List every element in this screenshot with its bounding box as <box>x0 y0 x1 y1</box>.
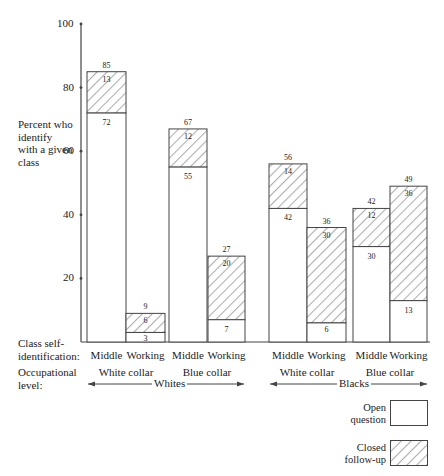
bar-total-label: 85 <box>99 60 115 72</box>
bar-open-label: 7 <box>219 324 235 336</box>
bar-closed-label: 14 <box>280 166 296 178</box>
group-arrows <box>88 382 427 387</box>
bar-total-label: 56 <box>280 152 296 164</box>
bar-open-label: 42 <box>280 212 296 224</box>
y-tick-label: 100 <box>57 17 74 29</box>
bar-total-label: 49 <box>401 174 417 186</box>
bar-7 <box>390 186 427 342</box>
bar-total-label: 9 <box>138 301 154 313</box>
bar-open-label: 55 <box>180 171 196 183</box>
bar-total-label: 67 <box>180 117 196 129</box>
legend-closed-label: Closed follow-up <box>326 442 386 466</box>
legend-closed-swatch <box>391 441 428 466</box>
bar-open-label: 30 <box>364 251 380 263</box>
bar-open-label: 72 <box>99 117 115 129</box>
legend-open-swatch <box>390 400 428 426</box>
bar-total-label: 42 <box>364 196 380 208</box>
class-self-identification-label: Class self- identification: <box>18 337 80 362</box>
bar-closed-label: 13 <box>99 74 115 86</box>
race-label-whites: Whites <box>152 377 187 389</box>
y-axis-title: Percent who identify with a given class <box>18 118 73 168</box>
class-label: Working <box>197 349 257 361</box>
bar-total-label: 36 <box>319 216 335 228</box>
bar-open-label: 13 <box>401 305 417 317</box>
bar-total-label: 27 <box>219 244 235 256</box>
race-label-blacks: Blacks <box>337 377 371 389</box>
class-label: Working <box>379 349 439 361</box>
bar-closed-label: 20 <box>219 258 235 270</box>
bar-2 <box>169 129 207 342</box>
bar-closed-label: 36 <box>401 188 417 200</box>
bar-open-label: 6 <box>319 324 335 336</box>
bar-open-label: 3 <box>138 333 154 345</box>
y-tick-label: 80 <box>63 81 74 93</box>
bar-closed-label: 12 <box>180 131 196 143</box>
bar-closed-label: 30 <box>319 230 335 242</box>
legend-open-label: Open question <box>326 402 386 426</box>
bar-0 <box>87 72 126 342</box>
bar-closed-label: 12 <box>364 210 380 222</box>
bar-4 <box>269 164 307 342</box>
legend-swatches <box>391 441 428 466</box>
occupational-level-label: Occupational level: <box>18 366 77 391</box>
bar-closed-label: 6 <box>138 315 154 327</box>
bar-6 <box>353 208 390 342</box>
y-tick-label: 40 <box>63 208 74 220</box>
y-tick-label: 20 <box>63 271 74 283</box>
